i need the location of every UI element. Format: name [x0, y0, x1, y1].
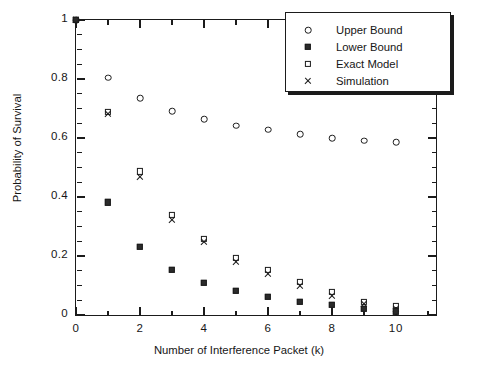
y-tick-label-text: 0.4 [51, 189, 68, 201]
legend-row: Simulation [286, 72, 450, 90]
data-point-upper-bound [361, 137, 368, 144]
data-point-lower-bound [329, 302, 335, 308]
y-axis-title: Probability of Survival [11, 68, 23, 228]
data-point-simulation [168, 216, 176, 224]
legend-row: Lower Bound [286, 38, 450, 56]
legend-filled-square-icon [305, 44, 311, 50]
y-tick-label-text: 1 [61, 12, 68, 24]
data-point-upper-bound [329, 135, 336, 142]
data-point-upper-bound [105, 74, 112, 81]
data-point-simulation [296, 282, 304, 290]
data-point-simulation [136, 173, 144, 181]
legend-cross-icon [304, 77, 312, 85]
y-tick-label-text: 0.8 [51, 71, 68, 83]
data-point-upper-bound [169, 108, 176, 115]
data-point-simulation [328, 292, 336, 300]
x-tick-label: 0 [72, 322, 79, 334]
data-point-simulation [264, 270, 272, 278]
y-tick-label-text: 0.6 [51, 130, 68, 142]
data-point-simulation [104, 110, 112, 118]
data-point-lower-bound [297, 299, 303, 305]
data-point-lower-bound [137, 243, 143, 249]
x-axis-title: Number of Interference Packet (k) [0, 344, 478, 356]
data-point-simulation [232, 258, 240, 266]
y-tick-label-text: 0.2 [51, 248, 68, 260]
data-point-lower-bound [233, 288, 239, 294]
data-point-lower-bound [169, 267, 175, 273]
data-point-upper-bound [201, 116, 208, 123]
data-point-lower-bound [201, 279, 207, 285]
data-point-upper-bound [233, 122, 240, 129]
legend-row: Exact Model [286, 55, 450, 73]
data-point-lower-bound [265, 294, 271, 300]
data-point-lower-bound [73, 17, 79, 23]
data-point-lower-bound [361, 305, 367, 311]
y-tick-label-text: 0 [61, 307, 68, 319]
legend-label: Lower Bound [336, 38, 403, 56]
data-point-upper-bound [297, 131, 304, 138]
data-point-lower-bound [105, 199, 111, 205]
x-tick-label: 4 [200, 322, 207, 334]
chart-figure: 00.20.40.60.810246810 Probability of Sur… [0, 0, 478, 369]
data-point-upper-bound [265, 126, 272, 133]
data-point-simulation [200, 238, 208, 246]
legend-label: Simulation [336, 72, 389, 90]
x-tick-label: 6 [264, 322, 271, 334]
x-tick-label: 2 [136, 322, 143, 334]
legend-label: Exact Model [336, 55, 398, 73]
x-tick-label: 10 [389, 322, 403, 334]
legend-open-square-icon [305, 61, 311, 67]
x-axis-line [75, 315, 437, 316]
data-point-upper-bound [393, 139, 400, 146]
legend-open-circle-icon [305, 27, 312, 34]
legend-row: Upper Bound [286, 21, 450, 39]
legend-label: Upper Bound [336, 21, 403, 39]
x-tick-label: 8 [328, 322, 335, 334]
data-point-lower-bound [393, 308, 399, 314]
data-point-upper-bound [137, 95, 144, 102]
chart-legend: Upper BoundLower BoundExact ModelSimulat… [285, 12, 451, 92]
